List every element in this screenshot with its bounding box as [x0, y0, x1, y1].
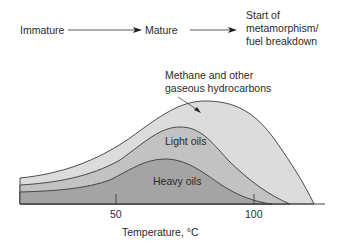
methane-label-line1: Methane and other [165, 69, 254, 81]
stage-start-line3: fuel breakdown [246, 35, 317, 47]
heavy-oils-label: Heavy oils [153, 175, 201, 187]
x-axis-label: Temperature, °C [122, 226, 199, 238]
hydrocarbon-maturation-diagram: Immature Mature Start of metamorphism/ f… [0, 0, 339, 250]
tick-label-50: 50 [110, 208, 122, 220]
stage-immature: Immature [20, 24, 65, 36]
tick-label-100: 100 [245, 208, 263, 220]
methane-label-line2: gaseous hydrocarbons [165, 82, 271, 94]
stage-mature: Mature [145, 24, 178, 36]
stage-start-line2: metamorphism/ [246, 22, 318, 34]
light-oils-label: Light oils [165, 135, 206, 147]
stage-start-line1: Start of [246, 9, 280, 21]
